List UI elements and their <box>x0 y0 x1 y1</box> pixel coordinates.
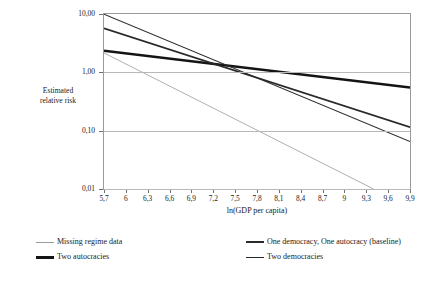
x-tick-mark <box>301 190 302 193</box>
series-line <box>104 14 410 141</box>
y-axis-title-line-2: relative risk <box>22 96 94 106</box>
x-tick-mark <box>344 190 345 193</box>
x-tick-mark <box>279 190 280 193</box>
legend-item-missing-regime-data[interactable]: Missing regime data <box>36 237 122 247</box>
x-tick-mark <box>366 190 367 193</box>
plot-area <box>103 13 411 190</box>
legend-item-one-democracy-one-autocracy[interactable]: One democracy, One autocracy (baseline) <box>246 237 401 247</box>
x-tick-label: 9,9 <box>395 194 425 203</box>
x-tick-mark <box>170 190 171 193</box>
y-axis-title: Estimated relative risk <box>22 86 94 106</box>
series-lines <box>104 14 410 189</box>
legend-item-label: Two democracies <box>267 252 323 262</box>
x-tick-mark <box>410 190 411 193</box>
series-line <box>104 53 374 189</box>
y-tick-label: 0,10 <box>55 127 95 135</box>
x-axis-title: ln(GDP per capita) <box>103 206 411 215</box>
legend-line-swatch-icon <box>246 257 264 258</box>
gridline <box>104 131 410 132</box>
legend-item-label: Missing regime data <box>57 237 122 247</box>
chart-figure: Estimated relative risk 10,001,000,100,0… <box>0 0 434 284</box>
series-line <box>104 51 410 88</box>
legend-item-label: One democracy, One autocracy (baseline) <box>267 237 401 247</box>
gridline <box>104 72 410 73</box>
legend-item-label: Two autocracies <box>57 252 109 262</box>
legend-line-swatch-icon <box>246 241 264 243</box>
legend-line-swatch-icon <box>36 256 54 259</box>
y-axis-title-line-1: Estimated <box>22 86 94 96</box>
x-tick-mark <box>126 190 127 193</box>
x-tick-mark <box>257 190 258 193</box>
y-tick-label: 1,00 <box>55 68 95 76</box>
y-tick-label: 0,01 <box>55 185 95 193</box>
x-tick-mark <box>323 190 324 193</box>
x-tick-mark <box>388 190 389 193</box>
legend-line-swatch-icon <box>36 242 54 243</box>
x-tick-mark <box>235 190 236 193</box>
x-tick-mark <box>104 190 105 193</box>
x-tick-mark <box>148 190 149 193</box>
x-tick-mark <box>213 190 214 193</box>
legend-item-two-democracies[interactable]: Two democracies <box>246 252 323 262</box>
legend-item-two-autocracies[interactable]: Two autocracies <box>36 252 109 262</box>
x-tick-mark <box>191 190 192 193</box>
chart-legend: Missing regime data Two autocracies One … <box>0 233 434 273</box>
y-tick-label: 10,00 <box>55 10 95 18</box>
